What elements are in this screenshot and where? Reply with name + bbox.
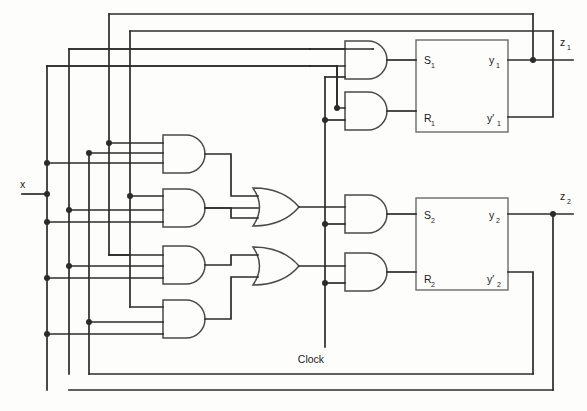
ff1-pin-s-sub: 1 bbox=[431, 62, 435, 69]
clock-distribution bbox=[322, 77, 345, 347]
circuit-diagram-canvas: x Clock S 1 R 1 y 1 y′ 1 S 2 R 2 y 2 y′ … bbox=[0, 0, 587, 411]
and-gate-reset1 bbox=[345, 92, 387, 130]
and-gate-p4 bbox=[163, 300, 205, 338]
product-term-input-wires bbox=[44, 140, 163, 337]
ff2-output-wires bbox=[508, 211, 573, 390]
and-gate-set2 bbox=[345, 195, 387, 233]
and-gate-set1 bbox=[345, 41, 387, 79]
and-gate-p1 bbox=[163, 135, 205, 173]
input-x-wire bbox=[22, 191, 50, 197]
ff1-pin-r-sub: 1 bbox=[431, 120, 435, 127]
output-label-z1: z bbox=[560, 36, 565, 48]
and-to-or-wires bbox=[205, 154, 258, 319]
ff2-pin-s: S bbox=[424, 209, 431, 221]
ff1-pin-s: S bbox=[424, 54, 431, 66]
or-gate-s1 bbox=[253, 188, 299, 226]
bottom-feedback-rails bbox=[69, 374, 553, 390]
or-output-wires bbox=[299, 207, 345, 266]
ff2-pin-qbar-sub: 2 bbox=[497, 281, 501, 288]
ff1-output-wires bbox=[508, 14, 573, 117]
ff1-pin-qbar-sub: 1 bbox=[497, 120, 501, 127]
and-gate-reset2 bbox=[345, 253, 387, 291]
output-label-z2-sub: 2 bbox=[567, 198, 571, 205]
and-gate-p3 bbox=[163, 246, 205, 284]
and-gate-p2 bbox=[163, 189, 205, 227]
clock-label: Clock bbox=[298, 353, 325, 365]
upper-and-input-wires bbox=[47, 49, 373, 111]
ff2-pin-s-sub: 2 bbox=[431, 217, 435, 224]
ff1-pin-qbar: y′ bbox=[487, 112, 494, 124]
or-gate-s2 bbox=[253, 247, 299, 285]
circuit-svg: x Clock S 1 R 1 y 1 y′ 1 S 2 R 2 y 2 y′ … bbox=[0, 0, 587, 411]
ff2-pin-r-sub: 2 bbox=[431, 281, 435, 288]
ff2-pin-qbar: y′ bbox=[487, 273, 494, 285]
ff1-pin-q-sub: 1 bbox=[496, 62, 500, 69]
ff2-pin-q: y bbox=[489, 209, 495, 221]
input-label-x: x bbox=[20, 178, 26, 190]
ff1-pin-q: y bbox=[489, 54, 495, 66]
output-label-z2: z bbox=[560, 190, 565, 202]
ff2-pin-q-sub: 2 bbox=[496, 217, 500, 224]
sr-input-wires bbox=[387, 60, 416, 272]
output-label-z1-sub: 1 bbox=[567, 44, 571, 51]
